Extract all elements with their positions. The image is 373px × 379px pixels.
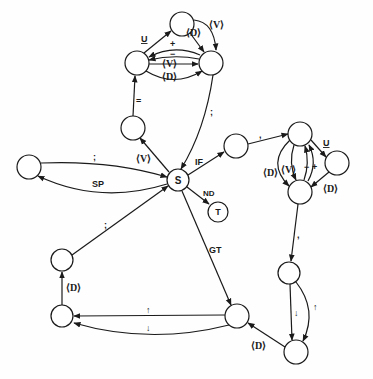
node-t-label: T — [215, 207, 221, 217]
label-down-bot: ↓ — [146, 323, 151, 333]
label-down-chain: ↓ — [294, 308, 299, 318]
label-gt: GT — [209, 245, 222, 255]
label-nd: ND — [203, 189, 215, 198]
node-left-upper[interactable] — [51, 249, 73, 271]
edge-rt-to-rb-d — [278, 140, 290, 186]
label-semi-sp: ; — [93, 152, 96, 162]
label-plus-top: + — [170, 39, 175, 49]
edge-s-to-if — [188, 152, 224, 175]
label-sp: SP — [92, 179, 104, 189]
edge-v-to-tl — [133, 76, 135, 116]
label-d-top: ⟨D⟩ — [186, 27, 201, 38]
node-v-target[interactable] — [121, 116, 145, 140]
edge-bm-to-ll-curved — [74, 323, 229, 335]
edge-c1-to-c2-straight — [290, 284, 292, 340]
node-sp[interactable] — [17, 155, 41, 179]
edge-if-to-rt — [248, 134, 288, 144]
edge-lu-to-s — [72, 186, 168, 255]
label-v-sv: ⟨V⟩ — [136, 153, 151, 164]
label-plus-r: + — [312, 162, 317, 172]
edge-tl-to-tm — [144, 31, 171, 53]
label-d-rloop: ⟨D⟩ — [263, 167, 278, 178]
nodes: S T — [17, 12, 349, 364]
label-u-right: U — [323, 138, 330, 148]
label-minus-r: − — [304, 162, 309, 172]
label-v-mid: ⟨V⟩ — [162, 58, 177, 69]
node-s-label: S — [175, 175, 182, 186]
edge-bm-to-ll-straight — [74, 315, 225, 316]
node-bottom-mid[interactable] — [225, 304, 249, 328]
node-if-target[interactable] — [224, 134, 248, 158]
state-diagram: S T ⟨V⟩ = U ⟨D⟩ ⟨V⟩ + − ⟨V⟩ ⟨D⟩ ; ; SP I… — [0, 0, 373, 379]
node-chain-lower[interactable] — [284, 340, 308, 364]
label-comma-if: , — [259, 130, 262, 140]
node-top-right[interactable] — [199, 51, 223, 75]
label-d-chain: ⟨D⟩ — [251, 340, 266, 351]
edge-tr-to-s — [181, 75, 213, 169]
label-d-left: ⟨D⟩ — [66, 282, 81, 293]
node-top-left[interactable] — [125, 51, 149, 75]
diagram-svg: S T ⟨V⟩ = U ⟨D⟩ ⟨V⟩ + − ⟨V⟩ ⟨D⟩ ; ; SP I… — [0, 0, 373, 379]
edge-sp-to-s — [41, 163, 167, 177]
label-u-top: U — [141, 34, 148, 44]
node-right-top[interactable] — [288, 122, 312, 146]
label-up-chain: ↑ — [313, 302, 318, 312]
node-chain-upper[interactable] — [278, 262, 300, 284]
label-semi-left: ; — [104, 220, 107, 230]
label-eq: = — [136, 96, 141, 106]
label-if: IF — [195, 157, 204, 167]
label-up-bot: ↑ — [146, 305, 151, 315]
node-left-lower[interactable] — [51, 305, 73, 327]
label-comma-r: , — [297, 230, 300, 240]
label-d-mid: ⟨D⟩ — [162, 71, 177, 82]
label-semi-top: ; — [210, 107, 213, 117]
label-v-rloop: ⟨V⟩ — [281, 164, 296, 175]
label-d-right: ⟨D⟩ — [323, 183, 338, 194]
label-v-top: ⟨V⟩ — [209, 19, 224, 30]
node-right-right[interactable] — [325, 151, 349, 175]
node-right-bottom[interactable] — [288, 180, 312, 204]
